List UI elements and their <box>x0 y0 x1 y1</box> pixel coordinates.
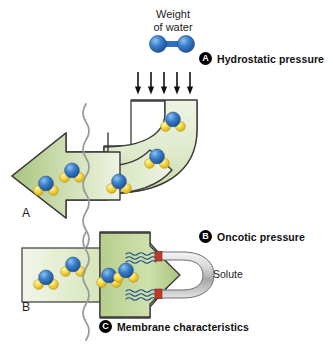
down-arrow-icon <box>135 72 141 95</box>
down-arrow-icon <box>161 72 167 95</box>
legend-item-hydrostatic-pressure: A Hydrostatic pressure <box>199 52 324 65</box>
weight-of-water-caption: Weight of water <box>137 8 209 34</box>
down-arrow-icon <box>148 72 154 95</box>
weight-line-1: Weight <box>137 8 209 21</box>
legend-item-membrane-characteristics: C Membrane characteristics <box>99 320 249 333</box>
panel-a-letter: A <box>22 206 30 220</box>
down-arrow-group <box>135 72 193 95</box>
down-arrow-icon <box>187 72 193 95</box>
weight-line-2: of water <box>137 21 209 34</box>
legend-label-c: Membrane characteristics <box>117 321 249 333</box>
oxygen-molecule-icon <box>150 36 195 53</box>
legend-marker-c: C <box>99 320 112 333</box>
legend-marker-a: A <box>199 52 212 65</box>
legend-item-oncotic-pressure: B Oncotic pressure <box>199 230 305 243</box>
legend-marker-b: B <box>199 230 212 243</box>
legend-label-a: Hydrostatic pressure <box>217 53 324 65</box>
legend-label-b: Oncotic pressure <box>217 231 305 243</box>
panel-b-letter: B <box>22 300 30 314</box>
figure-canvas: Weight of water A B Solute A Hydrostatic… <box>0 0 333 345</box>
down-arrow-icon <box>174 72 180 95</box>
solute-label: Solute <box>213 268 243 280</box>
hydrostatic-pressure-panel <box>12 36 197 249</box>
